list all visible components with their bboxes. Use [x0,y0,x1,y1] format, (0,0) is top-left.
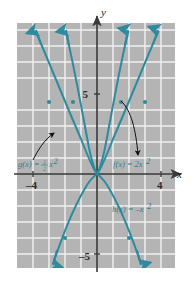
label-f-eq: = [127,159,133,169]
svg-text:f(x)=2x: f(x)=2x [113,159,143,169]
y-tick-label-5: 5 [83,88,89,100]
y-axis-label: y [100,6,106,18]
svg-text:h(x)=–x: h(x)=–x [112,204,144,214]
parabola-comparison-figure: x y 5 –5 –4 4 g(x)= 1 2 x 2 f(x)=2x 2 h(… [0,0,195,282]
svg-text:g(x)=: g(x)= [18,159,39,169]
curve-h-point-left [63,236,67,240]
x-tick-label-4: 4 [157,179,163,191]
label-h-eq: = [128,204,134,214]
y-tick-label-neg5: –5 [78,250,91,262]
curve-h-point-right [127,236,131,240]
plot-area-background [17,23,175,268]
label-f-variable: x [138,159,143,169]
label-g-variable: x [48,159,53,169]
curve-g-point-left [47,100,51,104]
label-h-variable: x [139,204,144,214]
label-g-frac-denominator: 2 [43,166,46,172]
graph-svg: x y 5 –5 –4 4 g(x)= 1 2 x 2 f(x)=2x 2 h(… [0,0,195,282]
label-g-eq: = [34,159,40,169]
x-tick-label-neg4: –4 [25,179,38,191]
curve-f-point-left [71,100,75,104]
label-h-arg: (x) [116,204,126,214]
label-f-arg: (x) [115,159,125,169]
x-axis-label: x [176,168,182,180]
curve-g-point-right [143,100,147,104]
label-g-arg: (x) [22,159,32,169]
label-g-frac-numerator: 1 [43,159,46,165]
